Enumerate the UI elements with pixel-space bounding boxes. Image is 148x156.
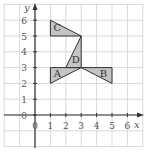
x-tick-label: 2	[63, 121, 69, 131]
x-tick-label: 3	[78, 121, 84, 131]
x-tick-label: 1	[48, 121, 54, 131]
x-tick-label: 6	[125, 121, 131, 131]
y-tick-label: 4	[21, 47, 27, 57]
x-axis-label: x	[134, 119, 140, 130]
shape-label-c: C	[54, 22, 62, 33]
y-axis-label: y	[23, 2, 30, 13]
y-tick-label: 3	[21, 63, 27, 73]
shape-label-a: A	[53, 68, 62, 79]
coordinate-diagram: ABCD 01234560123456 y x	[0, 0, 148, 156]
x-tick-label: 4	[94, 121, 100, 131]
y-tick-label: 2	[21, 79, 27, 89]
shape-label-b: B	[100, 68, 107, 79]
y-tick-label: 0	[21, 111, 27, 121]
shape-label-d: D	[72, 54, 80, 65]
y-tick-label: 1	[21, 95, 27, 105]
y-tick-label: 5	[21, 32, 27, 42]
grid-plot: ABCD 01234560123456 y x	[0, 0, 148, 156]
x-tick-label: 0	[32, 121, 38, 131]
x-tick-label: 5	[109, 121, 115, 131]
y-tick-label: 6	[21, 16, 27, 26]
